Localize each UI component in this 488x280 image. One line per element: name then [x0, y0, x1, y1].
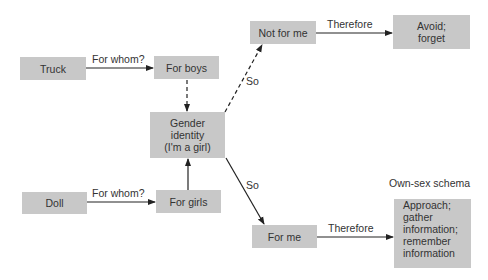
node-doll: Doll	[22, 192, 87, 214]
node-not-for-me: Not for me	[250, 21, 316, 44]
node-gender-identity: Gender identity (I'm a girl)	[150, 112, 225, 158]
approach-line-3: information;	[403, 223, 458, 235]
label-so-upper: So	[246, 75, 259, 87]
approach-line-1: Approach;	[403, 199, 451, 211]
node-truck-label: Truck	[40, 63, 66, 75]
arrow-identity-to-forme	[226, 158, 264, 224]
label-so-lower: So	[246, 179, 259, 191]
node-for-me-label: For me	[268, 231, 301, 243]
approach-line-2: gather	[403, 211, 433, 223]
own-sex-schema-label: Own-sex schema	[389, 177, 470, 189]
node-not-for-me-label: Not for me	[258, 27, 307, 39]
approach-line-5: information	[403, 247, 455, 259]
node-for-boys-label: For boys	[166, 62, 207, 74]
avoid-forget-line-1: Avoid;	[417, 20, 446, 32]
node-for-me: For me	[252, 225, 317, 248]
node-truck: Truck	[20, 57, 86, 80]
gender-identity-line-1: Gender	[170, 117, 205, 129]
label-doll-for-whom: For whom?	[92, 187, 145, 199]
label-truck-for-whom: For whom?	[92, 53, 145, 65]
label-forme-therefore: Therefore	[328, 222, 374, 234]
node-for-girls: For girls	[156, 190, 221, 213]
gender-identity-line-3: (I'm a girl)	[164, 141, 210, 153]
approach-line-4: remember	[403, 235, 451, 247]
node-for-girls-label: For girls	[170, 196, 208, 208]
gender-identity-line-2: identity	[171, 129, 204, 141]
node-doll-label: Doll	[45, 197, 63, 209]
node-avoid-forget: Avoid; forget	[393, 15, 470, 49]
label-notforme-therefore: Therefore	[327, 18, 373, 30]
node-for-boys: For boys	[154, 56, 219, 79]
avoid-forget-line-2: forget	[418, 32, 445, 44]
node-approach: Approach; gather information; remember i…	[394, 199, 471, 268]
